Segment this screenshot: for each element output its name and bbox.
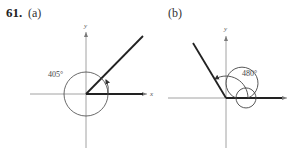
diagram-a: x y 405° (30, 22, 154, 148)
terminal-side-b (193, 43, 226, 98)
y-axis-label-b: y (223, 25, 228, 33)
diagram-b: y 480° (168, 25, 287, 148)
y-axis-label-a: y (83, 22, 88, 30)
angle-label-b: 480° (242, 69, 257, 78)
terminal-side-a (86, 36, 143, 94)
x-axis-label-a: x (149, 90, 154, 98)
angle-diagrams: x y 405° y 480° (0, 0, 293, 148)
angle-label-a: 405° (48, 70, 63, 79)
